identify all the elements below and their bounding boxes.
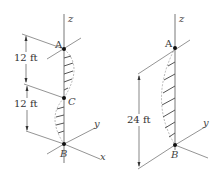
arrow-up-icon (26, 86, 29, 91)
right-panel: 24 ft z A B y (125, 13, 209, 169)
axis-label-z-right: z (178, 13, 185, 24)
point-label-b-left: B (59, 148, 67, 159)
axis-label-z-left: z (67, 13, 74, 24)
axis-label-y-right: y (202, 117, 209, 128)
point-b-right (173, 143, 177, 147)
arrow-down-icon (25, 78, 28, 83)
lower-load-curve (55, 98, 64, 144)
right-extension-bottom (138, 145, 175, 169)
point-a-right (173, 46, 177, 50)
axis-label-y-left: y (93, 118, 100, 129)
axis-label-x-left: x (100, 151, 106, 162)
right-x-axis (175, 145, 208, 158)
left-panel: 12 ft 12 ft z A C B y x (12, 13, 106, 163)
point-b-left (62, 142, 66, 146)
left-extension-middle (24, 84, 64, 98)
right-load-hatching (162, 62, 175, 137)
arrow-down-icon (138, 162, 141, 167)
upper-load-hatching (64, 56, 73, 90)
left-y-axis (64, 128, 95, 144)
point-label-a-right: A (164, 38, 173, 49)
right-crossbar-a (138, 40, 190, 74)
point-a-left (62, 47, 66, 51)
point-c-left (62, 96, 66, 100)
dimension-label-top: 12 ft (14, 52, 38, 63)
right-load-curve (162, 48, 176, 145)
arrow-down-icon (26, 126, 29, 131)
right-y-axis (175, 127, 205, 145)
left-x-axis (64, 144, 100, 159)
dimension-label-24ft: 24 ft (127, 114, 151, 125)
point-label-c-left: C (68, 96, 76, 107)
arrow-up-icon (25, 36, 28, 41)
arrow-up-icon (138, 75, 141, 80)
point-label-b-right: B (170, 149, 178, 160)
lower-load-hatching (56, 107, 64, 133)
point-label-a-left: A (54, 39, 63, 50)
statics-diagram: 12 ft 12 ft z A C B y x (0, 0, 214, 180)
dimension-label-bottom: 12 ft (14, 98, 38, 109)
